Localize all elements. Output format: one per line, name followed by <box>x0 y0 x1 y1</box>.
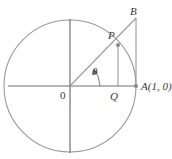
label-origin: 0 <box>60 90 66 101</box>
label-point-q: Q <box>110 91 118 102</box>
label-angle-theta: θ <box>92 66 97 77</box>
label-point-a: A(1, 0) <box>141 81 172 92</box>
point-dot-A-icon <box>134 84 138 88</box>
unit-circle-figure: B P A(1, 0) Q 0 θ <box>0 0 172 159</box>
label-point-b: B <box>130 6 137 17</box>
label-point-p: P <box>108 30 115 41</box>
point-dot-P-icon <box>116 43 120 47</box>
